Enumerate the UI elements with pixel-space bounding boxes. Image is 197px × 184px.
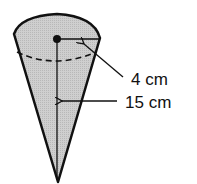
center-point — [53, 35, 61, 43]
height-label: 15 cm — [125, 93, 171, 112]
radius-label: 4 cm — [131, 70, 168, 89]
cone-diagram: 4 cm 15 cm — [0, 0, 197, 184]
